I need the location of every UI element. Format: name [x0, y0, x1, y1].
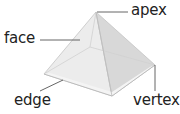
face-label: face — [4, 31, 35, 46]
pyramid-diagram: apex face edge vertex — [0, 0, 180, 114]
edge-leader-line — [40, 80, 63, 91]
edge-label: edge — [14, 93, 51, 108]
vertex-label: vertex — [133, 93, 180, 108]
apex-label: apex — [131, 3, 167, 18]
